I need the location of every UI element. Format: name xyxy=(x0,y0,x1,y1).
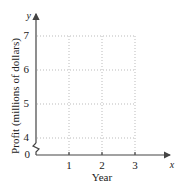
origin-label: 0 xyxy=(25,148,31,160)
y-axis xyxy=(33,14,39,155)
x-axis-name: x xyxy=(169,159,175,170)
axis-break-icon xyxy=(33,143,39,155)
y-axis-label: Profit (millions of dollars) xyxy=(9,38,22,154)
chart: 7 6 5 4 0 1 2 3 y x Year Profit (million… xyxy=(0,0,184,193)
y-tick-label-4: 4 xyxy=(24,131,30,143)
x-tick-label-3: 3 xyxy=(132,159,138,171)
y-tick-label-7: 7 xyxy=(24,29,30,41)
grid xyxy=(37,36,135,155)
x-tick-label-1: 1 xyxy=(66,159,72,171)
y-axis-name: y xyxy=(26,10,32,21)
x-axis xyxy=(36,152,170,155)
x-tick-label-2: 2 xyxy=(99,159,105,171)
x-axis-label: Year xyxy=(92,171,113,183)
y-tick-label-6: 6 xyxy=(24,63,30,75)
y-tick-label-5: 5 xyxy=(24,97,30,109)
